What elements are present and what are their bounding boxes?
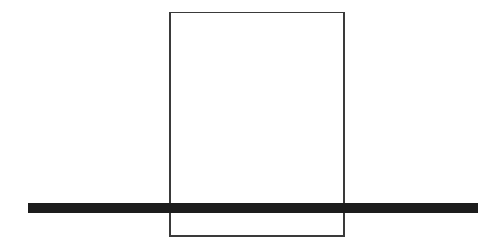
figure-line-drawing: Rectangle intersected by horizontal bar … (0, 0, 500, 249)
horizontal-bar (28, 203, 478, 213)
drawing-canvas: Rectangle intersected by horizontal bar … (0, 0, 500, 249)
